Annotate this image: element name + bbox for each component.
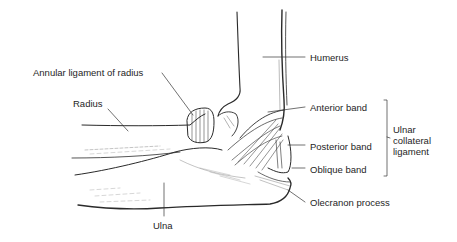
olecranon-leader — [288, 190, 305, 202]
ulna-drawing — [75, 148, 291, 209]
label-ucl-line3: ligament — [393, 146, 429, 157]
annular-ligament-leader — [162, 73, 193, 115]
radius-drawing — [72, 114, 205, 158]
anterior-band-leader — [268, 107, 305, 112]
label-humerus: Humerus — [310, 52, 349, 63]
label-olecranon: Olecranon process — [310, 197, 390, 208]
annular-ligament-drawing — [187, 108, 214, 143]
label-annular-ligament: Annular ligament of radius — [33, 67, 143, 78]
leader-lines — [108, 57, 390, 216]
label-ucl-line2: collateral — [393, 135, 431, 146]
label-radius: Radius — [73, 98, 103, 109]
ulnar-collateral-ligament-drawing — [228, 110, 291, 190]
label-posterior-band: Posterior band — [310, 141, 372, 152]
label-ulna: Ulna — [153, 220, 173, 231]
label-anterior-band: Anterior band — [310, 102, 367, 113]
label-oblique-band: Oblique band — [310, 164, 367, 175]
ucl-bracket — [384, 100, 390, 176]
label-ucl-line1: Ulnar — [393, 124, 416, 135]
radius-leader — [108, 109, 128, 131]
elbow-anatomy-diagram: Humerus Annular ligament of radius Radiu… — [0, 0, 457, 242]
